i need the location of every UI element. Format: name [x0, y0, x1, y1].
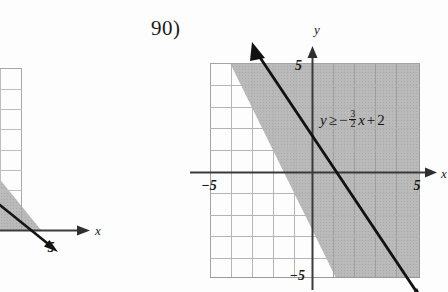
page-canvas: 90) [0, 0, 448, 292]
inequality-variable: x [358, 113, 365, 128]
inequality-annotation: y ≥ − 3 2 x + 2 [320, 110, 385, 130]
left-x-tick-5: 5 [48, 240, 55, 255]
right-shaded-region [230, 63, 420, 278]
right-x-tick-5: 5 [414, 178, 421, 193]
inequality-intercept: 2 [377, 113, 385, 128]
figure-left-partial: x 5 [0, 55, 98, 285]
fraction-denominator: 2 [349, 119, 356, 130]
inequality-fraction: 3 2 [349, 110, 356, 130]
right-y-axis-label: y [312, 22, 320, 37]
right-x-tick-minus5: −5 [201, 178, 216, 193]
right-y-tick-5: 5 [295, 58, 302, 73]
right-y-tick-minus5: −5 [290, 268, 305, 283]
right-x-axis-label: x [440, 166, 447, 181]
inequality-operator: + [367, 113, 375, 128]
fraction-numerator: 3 [349, 110, 356, 120]
left-x-axis-label: x [94, 223, 101, 238]
inequality-sign: − [339, 113, 347, 128]
problem-number: 90) [151, 18, 181, 39]
inequality-relation: ≥ [329, 113, 337, 128]
right-plot-svg: y x 5 −5 −5 5 [185, 18, 448, 292]
inequality-lhs: y [320, 113, 327, 128]
figure-right-inequality: y x 5 −5 −5 5 y ≥ − 3 2 x + 2 [185, 18, 448, 292]
left-plot-svg: x 5 [0, 55, 98, 285]
